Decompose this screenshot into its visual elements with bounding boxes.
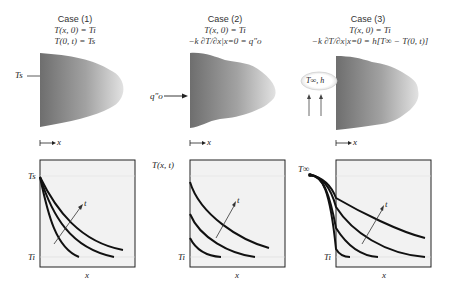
case3-plot — [308, 160, 431, 267]
case2-plot-y-top-label: T(x, t) — [152, 160, 174, 170]
case1-initial-condition: T(x, 0) = Ti — [30, 25, 120, 35]
case1-title: Case (1) — [45, 14, 105, 24]
case2-title: Case (2) — [195, 14, 255, 24]
case1-plot — [40, 160, 135, 267]
case3-initial-condition: T(x, 0) = Ti — [320, 25, 420, 35]
case1-boundary-condition: T(0, t) = Ts — [30, 36, 120, 46]
case1-solid — [40, 53, 124, 127]
case2-plot-y-bottom-label: Ti — [178, 252, 185, 262]
case3-title: Case (3) — [338, 14, 398, 24]
case3-solid — [336, 56, 419, 130]
case3-plot-x-label: x — [382, 270, 386, 280]
case2-plot-x-label: x — [235, 270, 239, 280]
case2-time-arrow-label: t — [237, 195, 240, 205]
case3-boundary-condition: −k ∂T/∂x|x=0 = h[T∞ − T(0, t)] — [290, 36, 450, 46]
case2-solid — [190, 53, 276, 128]
case3-x-arrow-label: x — [353, 137, 357, 147]
case1-surface-temp-label: Ts — [15, 70, 23, 80]
case3-plot-y-bottom-label: Ti — [324, 252, 331, 262]
case1-plot-x-label: x — [85, 270, 89, 280]
case2-initial-condition: T(x, 0) = Ti — [175, 25, 275, 35]
case3-plot-y-top-label: T∞ — [298, 164, 309, 174]
case2-heat-flux-label: q″o — [150, 91, 163, 101]
case2-x-arrow-label: x — [207, 137, 211, 147]
case1-time-arrow-label: t — [84, 198, 87, 208]
case2-boundary-condition: −k ∂T/∂x|x=0 = q″o — [165, 36, 285, 46]
case3-time-arrow-label: t — [385, 199, 388, 209]
case3-fluid-label: T∞, h — [306, 76, 324, 85]
case2-plot — [190, 160, 285, 267]
case1-plot-y-bottom-label: Ti — [28, 252, 35, 262]
case1-plot-y-top-label: Ts — [28, 171, 36, 181]
case1-x-arrow-label: x — [57, 137, 61, 147]
